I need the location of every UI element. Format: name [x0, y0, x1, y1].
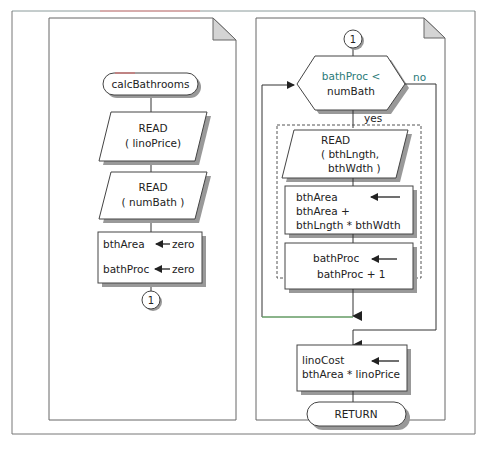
assign-target: bathProc [103, 263, 150, 275]
assign-cost-box: linoCost bthArea * linoPrice [297, 345, 411, 395]
yes-branch-label: yes [364, 112, 382, 124]
read-keyword: READ [321, 134, 350, 146]
read-dimensions: READ ( bthLngth, bthWdth ) [282, 130, 412, 182]
assign-target: bthArea [296, 191, 338, 203]
no-branch-label: no [413, 71, 426, 83]
flowchart-canvas: calcBathrooms READ ( linoPrice) READ ( n… [0, 0, 486, 451]
decision-condition: bathProc < [322, 70, 380, 82]
decision-loop-condition: bathProc < numBath [297, 56, 409, 114]
assign-expression: bathProc + 1 [317, 268, 385, 280]
assign-target: linoCost [302, 354, 344, 366]
start-label: calcBathrooms [112, 78, 190, 90]
connector-label: 1 [350, 34, 356, 45]
read-variable: bthWdth ) [328, 162, 381, 174]
assign-target: bthArea [103, 238, 145, 250]
end-label: RETURN [334, 408, 377, 420]
read-lino-price: READ ( linoPrice) [99, 112, 211, 165]
assign-expression: bthLngth * bthWdth [296, 219, 401, 231]
connector-label: 1 [148, 295, 154, 306]
read-num-bath: READ ( numBath ) [99, 172, 211, 223]
read-variable: ( linoPrice) [125, 137, 181, 149]
start-terminal: calcBathrooms [103, 73, 201, 98]
read-keyword: READ [138, 122, 167, 134]
read-keyword: READ [138, 181, 167, 193]
assign-area-box: bthArea bthArea + bthLngth * bthWdth [285, 186, 417, 238]
assign-value: zero [172, 263, 194, 275]
end-terminal: RETURN [307, 402, 410, 430]
assign-expression: bthArea + [296, 205, 350, 217]
assign-target: bathProc [313, 252, 360, 264]
read-variable: ( bthLngth, [321, 148, 379, 160]
assign-proc-box: bathProc bathProc + 1 [285, 243, 417, 293]
decision-condition: numBath [327, 85, 375, 97]
read-variable: ( numBath ) [122, 196, 185, 208]
assign-expression: bthArea * linoPrice [302, 368, 400, 380]
assign-init-box: bthArea zero bathProc zero [98, 232, 206, 287]
assign-value: zero [172, 238, 194, 250]
